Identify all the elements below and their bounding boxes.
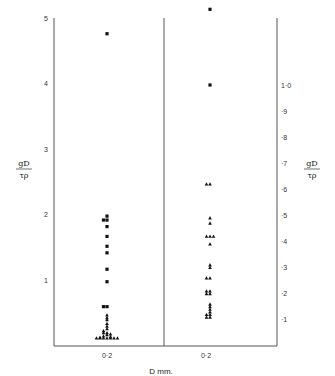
square-marker — [208, 83, 211, 86]
triangle-marker — [112, 336, 116, 339]
y-label-numerator: gD — [18, 159, 30, 168]
triangle-marker — [212, 234, 216, 237]
y-tick-label: 5 — [44, 15, 48, 22]
triangle-marker — [105, 336, 109, 339]
square-marker — [105, 215, 108, 218]
y-tick-label: ·6 — [281, 186, 287, 193]
square-marker — [105, 305, 108, 308]
square-marker — [102, 218, 105, 221]
y-tick-label: 1 — [44, 277, 48, 284]
triangle-marker — [208, 221, 212, 224]
square-marker — [105, 235, 108, 238]
triangle-marker — [205, 276, 209, 279]
y-tick-label: ·1 — [281, 316, 287, 323]
square-marker — [105, 268, 108, 271]
y-label-denominator: τρ — [19, 171, 28, 180]
y-tick-label: 2 — [44, 211, 48, 218]
triangle-marker — [205, 182, 209, 185]
square-marker — [105, 251, 108, 254]
y-tick-label: ·8 — [281, 134, 287, 141]
triangle-marker — [208, 242, 212, 245]
square-marker — [105, 280, 108, 283]
right-y-ticks: ·1·2·3·4·5·6·7·8·91·0 — [281, 82, 291, 324]
triangle-marker — [116, 336, 120, 339]
square-marker — [208, 8, 211, 11]
y-tick-label: ·9 — [281, 108, 287, 115]
triangle-marker — [208, 276, 212, 279]
square-marker — [105, 225, 108, 228]
triangle-marker — [208, 182, 212, 185]
left-y-ticks: 12345 — [44, 15, 48, 284]
right-y-axis-label: gD τρ — [304, 159, 320, 180]
left-y-axis-label: gD τρ — [16, 159, 32, 180]
triangle-marker — [98, 336, 102, 339]
square-marker — [105, 218, 108, 221]
y-tick-label: ·2 — [281, 290, 287, 297]
y-tick-label: ·3 — [281, 264, 287, 271]
triangle-marker — [208, 216, 212, 219]
triangle-marker — [208, 234, 212, 237]
left-x-tick-label: 0·2 — [102, 352, 112, 359]
y-tick-label: ·7 — [281, 160, 287, 167]
data-points — [95, 8, 216, 340]
y-label-numerator: gD — [306, 159, 318, 168]
y-tick-label: 4 — [44, 80, 48, 87]
triangle-marker — [95, 336, 99, 339]
y-tick-label: ·5 — [281, 212, 287, 219]
x-axis-label: D mm. — [149, 367, 173, 376]
y-label-denominator: τρ — [307, 171, 316, 180]
y-tick-label: 1·0 — [281, 82, 291, 89]
scatter-plot: 12345 ·1·2·3·4·5·6·7·8·91·0 0·2 0·2 D mm… — [0, 0, 335, 376]
right-x-tick-label: 0·2 — [201, 352, 211, 359]
y-tick-label: ·4 — [281, 238, 287, 245]
triangle-marker — [205, 234, 209, 237]
y-tick-label: 3 — [44, 146, 48, 153]
square-marker — [105, 32, 108, 35]
square-marker — [102, 305, 105, 308]
square-marker — [105, 245, 108, 248]
